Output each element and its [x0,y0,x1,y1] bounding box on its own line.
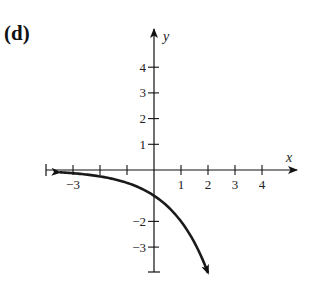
x-tick-label: 1 [178,177,185,192]
coordinate-plane: −31234 4321−2−3 x y [0,0,312,304]
x-tick-label: 3 [232,177,239,192]
y-tick-label: 4 [140,60,147,75]
x-tick-label: 2 [205,177,212,192]
y-axis-ticks: 4321−2−3 [132,60,159,255]
y-tick-label: 3 [140,85,147,100]
y-tick-label: −2 [132,214,146,229]
x-axis-label: x [285,150,293,165]
y-tick-label: −3 [132,240,146,255]
y-axis-label: y [161,29,170,44]
x-tick-label: 4 [259,177,266,192]
y-tick-label: 1 [140,137,147,152]
x-axis-ticks: −31234 [66,165,266,192]
x-tick-label: −3 [66,177,80,192]
y-tick-label: 2 [140,111,147,126]
y-axis [148,29,160,272]
